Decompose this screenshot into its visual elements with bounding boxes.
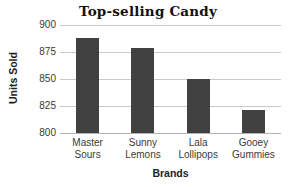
x-axis-line — [60, 133, 281, 134]
bar — [242, 110, 265, 133]
y-tick-label: 900 — [22, 20, 56, 30]
y-tick-label: 800 — [22, 128, 56, 138]
y-tick-label: 875 — [22, 47, 56, 57]
x-axis-tick-labels: Master SoursSunny LemonsLala LollipopsGo… — [60, 137, 281, 165]
y-axis-tick-labels: 900875850825800 — [18, 25, 56, 133]
bar — [76, 38, 99, 133]
y-tick-label: 850 — [22, 74, 56, 84]
chart-title: Top-selling Candy — [0, 3, 296, 19]
x-tick-label: Lala Lollipops — [171, 137, 226, 160]
bar-chart: Top-selling Candy 900875850825800 Master… — [0, 0, 296, 187]
bar — [187, 79, 210, 133]
y-axis-title: Units Sold — [7, 43, 19, 113]
y-tick-label: 825 — [22, 101, 56, 111]
x-tick-label: Gooey Gummies — [226, 137, 281, 160]
bar — [131, 48, 154, 133]
x-axis-title: Brands — [60, 167, 281, 179]
x-tick-label: Master Sours — [60, 137, 115, 160]
gridline — [60, 25, 281, 26]
x-tick-label: Sunny Lemons — [115, 137, 170, 160]
plot-area — [60, 25, 281, 133]
